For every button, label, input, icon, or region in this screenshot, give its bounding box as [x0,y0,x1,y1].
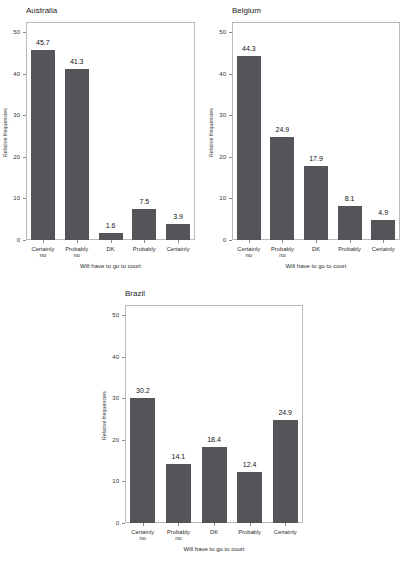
bar-value-label: 24.9 [265,409,305,417]
panel-title: Brazil [125,289,145,299]
x-axis-tick-label-line1: DK [210,529,218,535]
bar-value-label: 14.1 [158,453,198,461]
y-axis-tick-label: 40 [103,354,119,360]
x-axis-tick-label-line2: no [154,535,202,541]
y-axis-tick-mark [122,440,125,441]
bar [273,420,298,523]
x-axis-tick-label-line1: Certainly [131,529,154,535]
bar-value-label: 12.4 [230,461,270,469]
x-axis-tick-label: Certainly [261,529,309,535]
x-axis-tick-label-line1: Probably [238,529,261,535]
x-axis-tick-mark [178,523,179,526]
y-axis-tick-label: 0 [103,520,119,526]
y-axis-tick-mark [122,523,125,524]
bar [166,464,191,523]
x-axis-tick-mark [250,523,251,526]
y-axis-tick-mark [122,315,125,316]
y-axis-tick-mark [122,357,125,358]
x-axis-tick-mark [214,523,215,526]
bar-value-label: 30.2 [123,387,163,395]
x-axis-tick-label-line1: Certainly [274,529,297,535]
y-axis-tick-mark [122,481,125,482]
bar-value-label: 18.4 [194,436,234,444]
y-axis-title: Relative frequencies [101,391,107,440]
bar [202,447,227,523]
x-axis-tick-mark [143,523,144,526]
bar [237,472,262,523]
y-axis-tick-label: 50 [103,312,119,318]
panel-brazil: Brazil01020304050Relative frequencies30.… [0,0,409,566]
x-axis-tick-label-line1: Probably [167,529,190,535]
bar [130,398,155,523]
y-axis-tick-mark [122,398,125,399]
y-axis-tick-label: 10 [103,478,119,484]
x-axis-tick-mark [285,523,286,526]
x-axis-title: Will have to go to court [125,546,303,553]
